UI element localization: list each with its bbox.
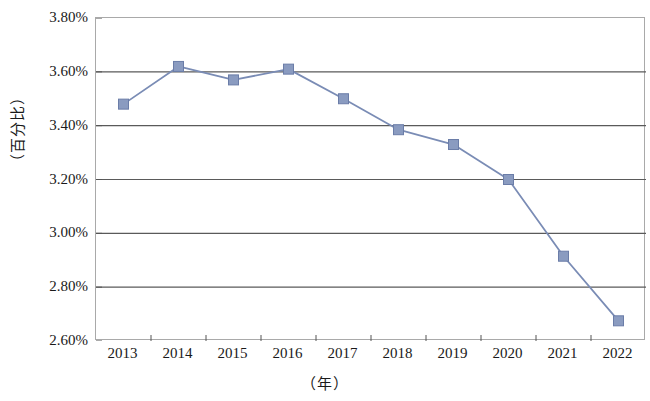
data-point-marker [504,175,514,185]
y-axis-title: （百分比） [6,69,27,189]
plot-area [95,17,645,340]
data-point-marker [284,64,294,74]
y-tick-label: 3.60% [28,64,88,79]
y-tick-label: 2.80% [28,279,88,294]
y-tick-label: 3.00% [28,225,88,240]
data-point-marker [559,251,569,261]
series-line [124,66,619,320]
x-tick-label: 2022 [583,346,650,361]
y-tick-label: 3.20% [28,172,88,187]
data-point-marker [174,61,184,71]
x-axis-title: （年） [0,372,650,393]
data-point-marker [614,316,624,326]
data-point-marker [339,94,349,104]
y-tick-label: 3.40% [28,118,88,133]
line-chart: （百分比） 3.80%3.60%3.40%3.20%3.00%2.80%2.60… [0,0,650,401]
data-point-marker [449,140,459,150]
plot-svg [96,18,646,341]
data-point-marker [229,75,239,85]
y-axis-tick-labels: 3.80%3.60%3.40%3.20%3.00%2.80%2.60% [28,0,88,401]
data-point-marker [119,99,129,109]
data-point-marker [394,125,404,135]
x-axis-tick-labels: 2013201420152016201720182019202020212022 [95,346,645,370]
y-tick-label: 2.60% [28,333,88,348]
y-tick-label: 3.80% [28,10,88,25]
